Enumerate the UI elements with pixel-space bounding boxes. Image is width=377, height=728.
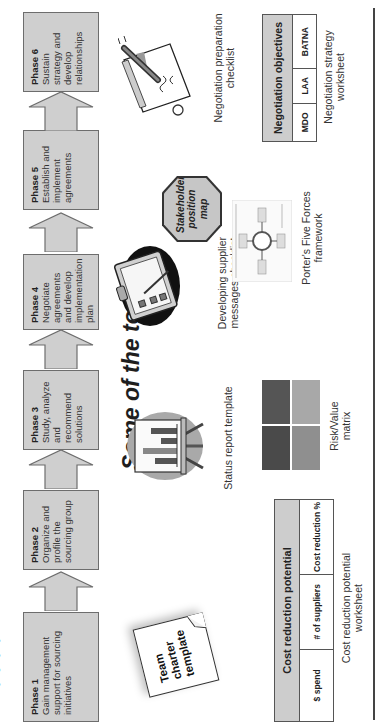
stakeholder-map-shape: Stakeholder position map: [164, 178, 220, 240]
matrix-cell: [292, 380, 320, 424]
bottom-divider: [373, 8, 375, 720]
negotiation-worksheet-caption: Negotiation strategy worksheet: [322, 22, 346, 132]
matrix-cell: [292, 426, 320, 470]
arrow-right-icon: [23, 449, 99, 489]
col-batna: BATNA: [293, 15, 317, 69]
pen-paper-icon: [118, 36, 193, 120]
porters-caption: Porter's Five Forces framework: [300, 188, 324, 288]
phase-2-box: Phase 2 Organize and profile the sourcin…: [23, 490, 99, 570]
phase-6-box: Phase 6 Sustain strategy and develop rel…: [23, 12, 99, 92]
cost-reduction-header: Cost reduction potential: [275, 500, 300, 722]
negotiation-objectives-table: Negotiation objectives MDO LAA BATNA: [262, 14, 317, 142]
risk-value-matrix: [262, 380, 320, 470]
col-spend: $ spend: [300, 649, 334, 721]
phase-3-title: Phase 3: [29, 377, 40, 443]
five-forces-diagram-icon: [232, 200, 292, 282]
easel-chart-icon: [125, 410, 205, 482]
slide: • • • • Phase 1 Gain management support …: [0, 0, 377, 728]
col-mdo: MDO: [293, 103, 317, 141]
matrix-cell: [262, 426, 290, 470]
note-page-icon: Team charter template: [133, 612, 220, 697]
negotiation-objectives-header: Negotiation objectives: [263, 15, 293, 142]
phase-2-text: Organize and profile the sourcing group: [40, 500, 73, 563]
arrow-right-icon: [23, 329, 99, 369]
phase-2-title: Phase 2: [29, 497, 40, 563]
stakeholder-map-label: Stakeholder position map: [175, 185, 210, 233]
cost-reduction-table: Cost reduction potential $ spend # of su…: [274, 499, 334, 722]
phase-1-text: Gain management support for sourcing ini…: [40, 631, 73, 715]
phase-5-title: Phase 5: [29, 137, 40, 203]
cost-worksheet-caption: Cost reduction potential worksheet: [340, 548, 364, 668]
phase-4-box: Phase 4 Negotiate agreements and develop…: [23, 254, 99, 330]
page-title-fragment: • • • •: [0, 636, 9, 688]
col-cost-reduction: Cost reduction %: [300, 500, 334, 575]
phase-4-text: Negotiate agreements and develop impleme…: [40, 259, 95, 323]
phase-6-title: Phase 6: [29, 19, 40, 85]
phase-5-text: Establish and implement agreements: [40, 146, 73, 203]
arrow-right-icon: [23, 212, 99, 252]
status-report-caption: Status report template: [222, 378, 234, 498]
matrix-cell: [262, 380, 290, 424]
phase-3-text: Study, analyze and recommend solutions: [40, 381, 84, 443]
negotiation-checklist-caption: Negotiation preparation checklist: [212, 8, 236, 128]
phase-4-title: Phase 4: [29, 261, 40, 323]
phase-1-title: Phase 1: [29, 619, 40, 715]
risk-value-caption: Risk/Value matrix: [328, 386, 352, 466]
clipboard-icon: [112, 243, 182, 328]
col-laa: LAA: [293, 69, 317, 103]
phase-5-box: Phase 5 Establish and implement agreemen…: [23, 130, 99, 210]
phase-3-box: Phase 3 Study, analyze and recommend sol…: [23, 370, 99, 450]
phase-6-text: Sustain strategy and develop relationshi…: [40, 32, 84, 85]
arrow-right-icon: [23, 91, 99, 131]
page-curl-icon: [187, 612, 206, 631]
col-suppliers: # of suppliers: [300, 574, 334, 649]
arrow-right-icon: [23, 571, 99, 611]
phase-1-box: Phase 1 Gain management support for sour…: [23, 612, 99, 722]
